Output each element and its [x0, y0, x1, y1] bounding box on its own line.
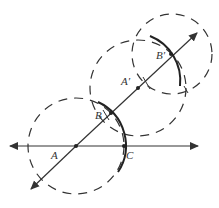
point-b-prime: [169, 52, 173, 56]
label-a-prime: A′: [120, 75, 131, 87]
point-a-prime: [136, 86, 140, 90]
label-b: B: [95, 109, 102, 121]
label-c: C: [126, 149, 134, 161]
point-b: [109, 111, 113, 115]
point-c: [122, 144, 126, 148]
construction-diagram: A B C A′ B′: [0, 0, 219, 208]
label-a: A: [50, 149, 58, 161]
label-b-prime: B′: [156, 49, 166, 61]
diagonal-ray-up: [76, 33, 197, 146]
point-a: [74, 144, 78, 148]
